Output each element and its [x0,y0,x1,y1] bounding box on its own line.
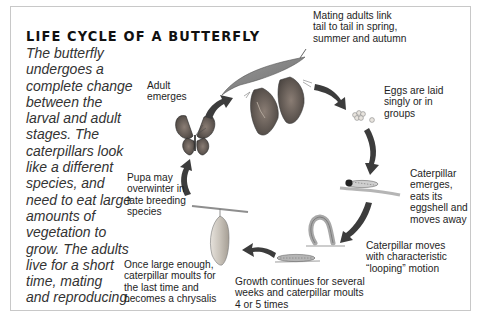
arrow-icon [364,128,379,175]
looping-caterpillar-icon [306,217,345,246]
cycle-arrows [180,84,379,258]
mating-butterflies-icon [222,49,312,135]
eggs-icon [353,111,375,123]
stage-label-looping: Caterpillar moves with characteristic “l… [366,240,447,274]
grown-caterpillar-icon [275,254,320,262]
stage-label-eggs: Eggs are laid singly or in groups [384,85,443,119]
stage-label-growth: Growth continues for several weeks and c… [235,276,365,310]
stage-label-pupa: Pupa may overwinter in late breeding spe… [127,172,186,218]
adult-butterfly-icon [176,116,215,155]
young-caterpillar-icon [340,180,400,195]
arrow-icon [242,243,276,258]
stage-label-caterpillar-emerges: Caterpillar emerges, eats its eggshell a… [410,168,468,225]
arrow-icon [314,84,346,110]
chrysalis-icon [192,206,248,265]
stage-label-chrysalis: Once large enough, caterpillar moults fo… [124,259,216,305]
arrow-icon [205,95,233,119]
stage-label-mating: Mating adults link tail to tail in sprin… [313,10,406,44]
stage-label-adult: Adult emerges [147,80,187,103]
arrow-icon [340,202,372,243]
